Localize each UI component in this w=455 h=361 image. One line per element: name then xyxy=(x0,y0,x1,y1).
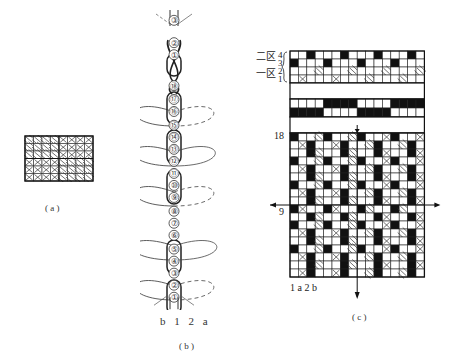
svg-text:⑩: ⑩ xyxy=(171,181,178,190)
figure-a-caption: ( a ) xyxy=(45,203,60,213)
svg-text:⑭: ⑭ xyxy=(170,133,178,142)
figure-a-grid xyxy=(24,135,94,182)
label-b: b xyxy=(160,315,169,327)
svg-text:②: ② xyxy=(171,281,178,290)
label-2: 2 xyxy=(189,315,198,327)
svg-text:④: ④ xyxy=(171,257,178,266)
svg-text:②: ② xyxy=(171,39,178,48)
svg-text:⑧: ⑧ xyxy=(171,207,178,216)
figure-c-weave-grid xyxy=(270,45,455,300)
figure-b-caption: ( b ) xyxy=(179,341,194,351)
svg-text:①: ① xyxy=(171,293,178,302)
figure-b-yarn-path-diagram: ③②①⑱⑰⑯⑮⑭⑬⑫⑪⑩⑨⑧⑦⑥⑤④③②① xyxy=(140,10,250,310)
figure-c-bottom-labels: 1 a 2 b xyxy=(290,282,317,293)
svg-text:⑯: ⑯ xyxy=(170,107,178,116)
svg-text:⑨: ⑨ xyxy=(171,193,178,202)
svg-text:⑫: ⑫ xyxy=(170,157,178,166)
svg-text:①: ① xyxy=(171,51,178,60)
svg-text:③: ③ xyxy=(171,269,178,278)
svg-text:⑬: ⑬ xyxy=(170,145,178,154)
figure-b-bottom-labels: b 1 2 a xyxy=(160,315,211,327)
svg-text:⑰: ⑰ xyxy=(170,95,178,104)
svg-text:⑥: ⑥ xyxy=(171,231,178,240)
label-a: a xyxy=(203,315,211,327)
svg-text:⑱: ⑱ xyxy=(170,82,178,91)
svg-text:⑪: ⑪ xyxy=(170,169,178,178)
svg-text:⑤: ⑤ xyxy=(171,245,178,254)
svg-text:③: ③ xyxy=(171,16,178,25)
label-1: 1 xyxy=(174,315,183,327)
figure-c-caption: ( c ) xyxy=(352,312,367,322)
svg-text:⑮: ⑮ xyxy=(170,121,178,130)
svg-text:⑦: ⑦ xyxy=(171,219,178,228)
